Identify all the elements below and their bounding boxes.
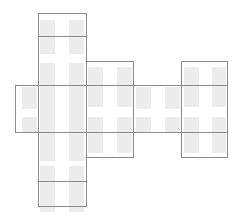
diagram-canvas [0, 0, 244, 218]
middle-block [88, 67, 103, 107]
right-block [184, 117, 199, 153]
band-block [22, 117, 37, 132]
band-block [165, 117, 180, 132]
band-block [165, 87, 180, 109]
column-block [40, 117, 55, 161]
column-block [40, 166, 55, 212]
middle-block [88, 117, 103, 153]
shaded-blocks [22, 20, 226, 212]
band-block [136, 87, 151, 109]
middle-block [117, 67, 132, 107]
column-block [69, 166, 84, 212]
right-block [184, 67, 199, 107]
band-block [136, 117, 151, 132]
column-block [69, 117, 84, 161]
band-block [22, 87, 37, 109]
middle-block [117, 117, 132, 153]
right-block [212, 67, 226, 107]
right-block [212, 117, 226, 153]
